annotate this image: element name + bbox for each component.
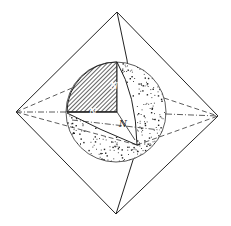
label-n-diagonal: N xyxy=(118,119,128,129)
octahedron-sphere-diagram: N N N xyxy=(0,0,231,226)
dash-left-upper xyxy=(16,88,72,112)
dashdot-right-center xyxy=(166,114,218,116)
label-n-vertical: N xyxy=(109,81,119,91)
label-n-horizontal: N xyxy=(88,107,98,117)
